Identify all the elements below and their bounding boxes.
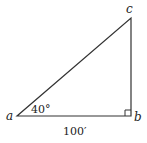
vertex-c-label: c <box>126 2 133 16</box>
vertex-a-label: a <box>6 109 13 123</box>
triangle-abc <box>17 18 131 116</box>
right-angle-marker <box>125 110 131 116</box>
triangle-diagram: a b c 40° 100′ <box>0 0 147 143</box>
side-ab-length-label: 100′ <box>63 125 87 138</box>
angle-a-label: 40° <box>31 103 51 116</box>
vertex-b-label: b <box>134 110 142 124</box>
